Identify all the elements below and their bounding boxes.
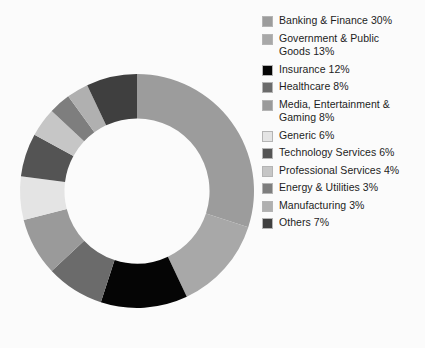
donut-chart-svg [18, 72, 256, 310]
legend-swatch-media-entertainment-gaming [262, 100, 273, 111]
legend-swatch-government-public-goods [262, 34, 273, 45]
legend-item[interactable]: Technology Services 6% [262, 146, 422, 160]
legend-item[interactable]: Energy & Utilities 3% [262, 181, 422, 195]
legend-item[interactable]: Insurance 12% [262, 63, 422, 77]
legend-item[interactable]: Professional Services 4% [262, 164, 422, 178]
donut-chart-plot-area [18, 72, 256, 310]
legend-swatch-healthcare [262, 82, 273, 93]
legend-item[interactable]: Healthcare 8% [262, 80, 422, 94]
legend-item-label: Healthcare 8% [279, 80, 349, 94]
legend-item[interactable]: Media, Entertainment & Gaming 8% [262, 98, 422, 125]
legend-swatch-energy-utilities [262, 183, 273, 194]
legend-swatch-insurance [262, 65, 273, 76]
legend-item-label: Energy & Utilities 3% [279, 181, 378, 195]
legend-swatch-banking-finance [262, 16, 273, 27]
legend-item-label: Generic 6% [279, 129, 334, 143]
legend-item-label: Media, Entertainment & Gaming 8% [279, 98, 390, 125]
legend-item[interactable]: Banking & Finance 30% [262, 14, 422, 28]
legend-item-label: Government & Public Goods 13% [279, 32, 379, 59]
legend-swatch-technology-services [262, 148, 273, 159]
legend-item-label: Manufacturing 3% [279, 199, 364, 213]
legend-item[interactable]: Government & Public Goods 13% [262, 32, 422, 59]
legend-swatch-generic [262, 131, 273, 142]
legend-item[interactable]: Others 7% [262, 216, 422, 230]
legend-item[interactable]: Manufacturing 3% [262, 199, 422, 213]
donut-slice-group [20, 74, 254, 308]
chart-legend: Banking & Finance 30%Government & Public… [262, 14, 422, 234]
legend-item[interactable]: Generic 6% [262, 129, 422, 143]
donut-chart-figure: Banking & Finance 30%Government & Public… [0, 0, 425, 348]
legend-item-label: Insurance 12% [279, 63, 350, 77]
legend-swatch-others [262, 218, 273, 229]
legend-item-label: Others 7% [279, 216, 329, 230]
legend-item-label: Banking & Finance 30% [279, 14, 392, 28]
legend-swatch-professional-services [262, 166, 273, 177]
legend-swatch-manufacturing [262, 201, 273, 212]
legend-item-label: Technology Services 6% [279, 146, 395, 160]
donut-slice[interactable] [137, 74, 254, 227]
legend-item-label: Professional Services 4% [279, 164, 399, 178]
